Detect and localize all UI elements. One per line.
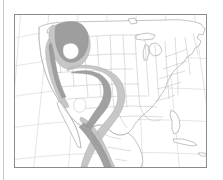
map-canvas xyxy=(15,15,207,168)
cuba-outline xyxy=(173,139,197,146)
figure-root xyxy=(0,0,223,180)
range-interior-gap xyxy=(63,43,79,59)
hispaniola-outline xyxy=(198,153,207,156)
range-interior-gap xyxy=(74,98,86,112)
map-frame xyxy=(14,14,207,168)
florida-peninsula xyxy=(170,110,180,134)
page-edge-rule xyxy=(3,0,4,180)
